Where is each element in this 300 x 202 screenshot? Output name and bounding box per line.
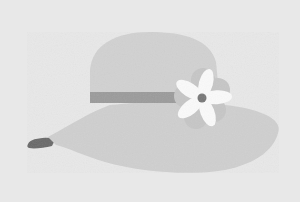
hat-illustration: Grayscale illustration of a wide-brimmed… [0, 0, 300, 202]
flower-center [198, 94, 207, 103]
hat-svg [0, 0, 300, 202]
hat-band [90, 92, 185, 103]
